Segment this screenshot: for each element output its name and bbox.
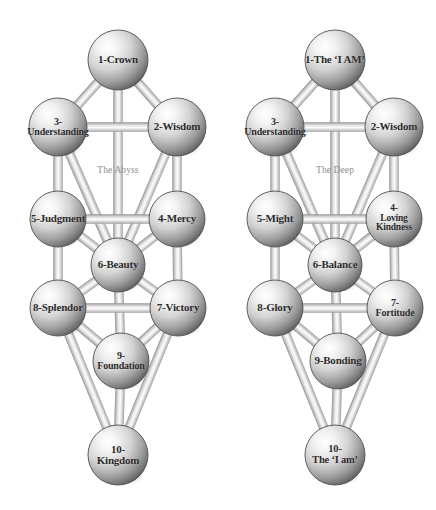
sphere-label-left-tree-s10: 10- Kingdom [80, 444, 157, 466]
sphere-label-right-tree-s6: 6-Balance [301, 259, 370, 270]
sphere-label-left-tree-s1: 1-Crown [80, 54, 157, 65]
sphere-label-left-tree-s2: 2-Wisdom [140, 121, 214, 132]
veil-label-right-tree: The Deep [316, 165, 354, 175]
sphere-label-right-tree-s9: 9-Bonding [302, 355, 373, 366]
sphere-labels-layer: 1-Crown2-Wisdom3- Understanding4-Mercy5-… [0, 0, 436, 510]
sphere-label-right-tree-s10: 10- The ‘I am’ [297, 444, 374, 465]
sphere-label-left-tree-s3: 3- Understanding [21, 117, 95, 137]
sphere-label-right-tree-s1: 1-The ‘I AM’ [297, 54, 374, 65]
sphere-label-right-tree-s4: 4- Loving Kindness [358, 204, 429, 233]
sphere-label-right-tree-s3: 3- Understanding [238, 117, 312, 137]
sphere-label-left-tree-s9: 9- Foundation [85, 351, 156, 371]
sphere-label-left-tree-s5: 5-Judgment [22, 213, 93, 224]
sphere-label-left-tree-s7: 7-Victory [142, 302, 213, 313]
sphere-label-right-tree-s7: 7- Fortitude [359, 298, 430, 318]
tree-of-life-canvas: 1-Crown2-Wisdom3- Understanding4-Mercy5-… [0, 0, 436, 510]
veil-label-left-tree: The Abyss [97, 165, 138, 175]
sphere-label-right-tree-s8: 8-Glory [239, 302, 310, 313]
sphere-label-left-tree-s4: 4-Mercy [141, 213, 212, 224]
sphere-label-left-tree-s6: 6-Beauty [84, 259, 153, 270]
sphere-label-left-tree-s8: 8-Splendor [22, 302, 93, 313]
sphere-label-right-tree-s2: 2-Wisdom [357, 121, 431, 132]
sphere-label-right-tree-s5: 5-Might [239, 213, 310, 224]
